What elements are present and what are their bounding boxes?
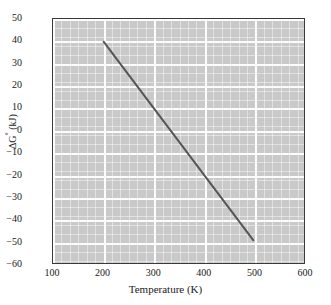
- y-tick-label: −40: [0, 214, 22, 224]
- x-tick-label: 500: [232, 268, 276, 278]
- plot-area: [52, 18, 305, 264]
- y-tick-label: 40: [0, 35, 22, 45]
- x-axis-title: Temperature (K): [0, 283, 331, 295]
- y-tick-label: 50: [0, 13, 22, 23]
- y-tick-label: −30: [0, 192, 22, 202]
- y-tick-label: −60: [0, 259, 22, 269]
- y-tick-label: −50: [0, 237, 22, 247]
- degree-symbol-icon: °: [4, 132, 13, 135]
- series-line-delta-g: [103, 41, 254, 241]
- x-tick-label: 400: [182, 268, 226, 278]
- x-tick-label: 600: [283, 268, 327, 278]
- y-axis-title-base: ΔG: [7, 135, 18, 149]
- y-tick-label: 30: [0, 58, 22, 68]
- x-tick-label: 100: [30, 268, 74, 278]
- y-axis-title: ΔG° (kJ): [4, 77, 17, 187]
- data-series-layer: [53, 19, 304, 263]
- x-tick-label: 200: [81, 268, 125, 278]
- gibbs-energy-temperature-chart: 50403020100−10−20−30−40−50−60 1002003004…: [0, 0, 331, 305]
- y-axis-title-units: (kJ): [7, 114, 18, 132]
- x-tick-label: 300: [131, 268, 175, 278]
